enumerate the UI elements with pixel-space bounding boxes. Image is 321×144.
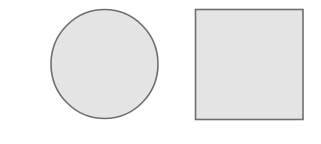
square-shape: [196, 10, 304, 120]
circle-shape: [51, 10, 158, 119]
diagram-canvas: [0, 0, 321, 144]
